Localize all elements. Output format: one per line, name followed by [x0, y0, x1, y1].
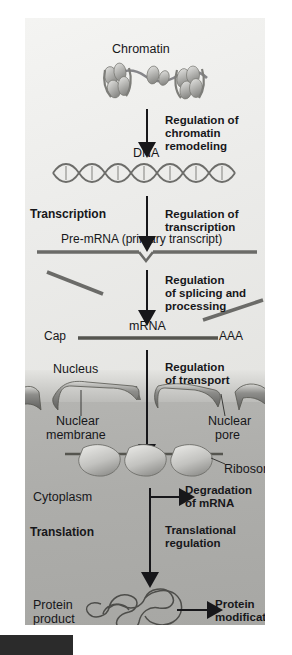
label-regulation-chromatin-2: chromatin [165, 127, 221, 140]
label-nucleus: Nucleus [53, 362, 98, 376]
label-pre-mrna: Pre-mRNA (primary transcript) [61, 233, 222, 247]
label-regulation-chromatin-3: remodeling [165, 140, 227, 153]
label-ribosome: Ribosome [224, 462, 265, 476]
label-regulation-transcription-1: Regulation of [165, 208, 238, 221]
label-translation: Translation [30, 526, 94, 540]
label-dna: DNA [133, 146, 159, 160]
chromatin-structure [103, 62, 207, 99]
label-translational-regulation-2: regulation [165, 537, 221, 550]
label-regulation-transport-1: Regulation [165, 361, 224, 374]
label-chromatin: Chromatin [112, 42, 170, 56]
label-degradation-1: Degradation [185, 484, 252, 497]
label-cap: Cap [44, 330, 66, 344]
pre-mrna-strand [37, 252, 257, 261]
ribosome-structure [65, 445, 225, 476]
label-regulation-splicing-1: Regulation [165, 274, 224, 287]
label-nuclear-membrane-2: membrane [46, 428, 106, 442]
label-nuclear-pore-1: Nuclear [208, 414, 251, 428]
label-degradation-2: of mRNA [185, 497, 234, 510]
bottom-black-bar [0, 635, 73, 655]
label-translational-regulation-1: Translational [165, 524, 236, 537]
label-regulation-chromatin-1: Regulation of [165, 114, 238, 127]
label-protein-modifications-2: modifications [215, 611, 265, 624]
dna-double-helix [53, 164, 235, 182]
label-cytoplasm: Cytoplasm [33, 490, 92, 504]
gene-expression-regulation-diagram: Chromatin Regulation of chromatin remode… [25, 18, 265, 625]
label-nuclear-membrane-1: Nuclear [56, 414, 99, 428]
label-mrna: mRNA [129, 319, 166, 333]
label-regulation-splicing-3: processing [165, 300, 226, 313]
label-regulation-splicing-2: of splicing and [165, 287, 246, 300]
label-poly-a-tail: AAA [219, 330, 243, 344]
label-transcription: Transcription [30, 208, 106, 222]
arrow-mrna-degradation [150, 488, 183, 518]
label-nuclear-pore-2: pore [215, 428, 240, 442]
protein-product-structure [87, 589, 182, 625]
label-protein-product-1: Protein [33, 598, 73, 612]
label-protein-modifications-1: Protein [215, 598, 255, 611]
label-protein-product-2: product [33, 612, 75, 625]
label-regulation-transport-2: of transport [165, 374, 230, 387]
excised-intron-left [47, 272, 103, 294]
